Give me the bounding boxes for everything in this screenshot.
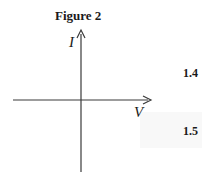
iv-axes (0, 0, 202, 175)
section-number: 1.5 (183, 124, 198, 139)
section-number: 1.4 (183, 66, 198, 81)
y-axis-label: I (69, 34, 74, 51)
x-axis-label: V (134, 104, 143, 121)
